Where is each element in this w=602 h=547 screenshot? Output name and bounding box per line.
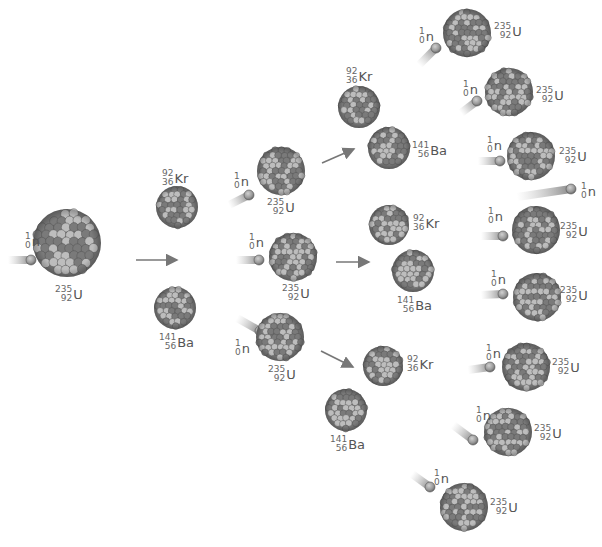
atomic-number: 92 [274, 374, 285, 383]
element-symbol: n [588, 185, 596, 198]
nucleus-u-235 [33, 209, 101, 277]
isotope-label: 23592U [282, 284, 310, 302]
diagram-canvas [0, 0, 602, 547]
isotope-label: 14156Ba [412, 141, 447, 159]
element-symbol: U [552, 427, 562, 440]
isotope-label: 9236Kr [413, 214, 439, 232]
element-symbol: Kr [425, 217, 439, 230]
atomic-number: 0 [234, 181, 240, 190]
isotope-label: 10n [581, 182, 596, 200]
nucleus-u-235 [257, 147, 305, 196]
isotope-label: 10n [25, 232, 40, 250]
atomic-number: 92 [565, 156, 576, 165]
isotope-label: 14156Ba [397, 296, 432, 314]
element-symbol: n [483, 409, 491, 422]
isotope-label: 23592U [55, 285, 83, 303]
atomic-number: 0 [25, 241, 31, 250]
nucleus-u-235 [484, 408, 532, 456]
reaction-arrow [321, 351, 353, 367]
isotope-label: 9236Kr [346, 67, 372, 85]
nucleus-u-235 [256, 313, 304, 361]
element-symbol: U [570, 361, 580, 374]
element-symbol: U [508, 501, 518, 514]
atomic-number: 56 [418, 150, 429, 159]
atomic-number: 0 [491, 279, 497, 288]
element-symbol: n [498, 273, 506, 286]
element-symbol: Kr [174, 172, 188, 185]
isotope-label: 23592U [267, 198, 295, 216]
atomic-number: 92 [558, 367, 569, 376]
element-symbol: U [286, 368, 296, 381]
element-symbol: n [470, 83, 478, 96]
isotope-label: 10n [434, 469, 449, 487]
atomic-number: 0 [419, 36, 425, 45]
isotope-label: 10n [486, 344, 501, 362]
isotope-label: 23592U [268, 365, 296, 383]
nucleus-ba-141 [391, 250, 434, 293]
element-symbol: U [285, 201, 295, 214]
nucleus-ba-141 [325, 389, 368, 433]
isotope-label: 10n [487, 136, 502, 154]
nucleus-u-235 [269, 233, 317, 282]
isotope-label: 14156Ba [159, 333, 194, 351]
atomic-number: 56 [336, 444, 347, 453]
neutron [410, 471, 435, 492]
neutron [467, 362, 495, 374]
isotope-label: 10n [235, 339, 250, 357]
atomic-number: 0 [476, 415, 482, 424]
atomic-number: 36 [407, 364, 418, 373]
element-symbol: n [495, 210, 503, 223]
isotope-label: 9236Kr [407, 355, 433, 373]
element-symbol: U [577, 150, 587, 163]
neutron [478, 156, 505, 166]
element-symbol: n [242, 342, 250, 355]
nucleus-u-235 [485, 68, 534, 116]
atomic-number: 0 [581, 191, 587, 200]
nucleus-kr-92 [363, 346, 403, 386]
atomic-number: 92 [542, 95, 553, 104]
element-symbol: U [300, 287, 310, 300]
neutron [451, 422, 478, 445]
nucleus-ba-141 [154, 286, 196, 329]
isotope-label: 23592U [552, 358, 580, 376]
atomic-number: 0 [487, 145, 493, 154]
neutron [227, 190, 254, 209]
neutron [416, 43, 441, 68]
element-symbol: n [256, 236, 264, 249]
neutron [459, 96, 482, 116]
atomic-number: 0 [486, 353, 492, 362]
isotope-label: 10n [488, 207, 503, 225]
nucleus-kr-92 [369, 205, 409, 245]
element-symbol: n [441, 472, 449, 485]
atomic-number: 92 [500, 31, 511, 40]
neutron [236, 255, 264, 265]
nucleus-u-235 [507, 132, 555, 180]
isotope-label: 10n [419, 27, 434, 45]
nucleus-kr-92 [156, 186, 198, 229]
atomic-number: 36 [413, 223, 424, 232]
element-symbol: Ba [177, 336, 194, 349]
atomic-number: 36 [162, 178, 173, 187]
atomic-number: 0 [488, 216, 494, 225]
atomic-number: 0 [235, 348, 241, 357]
element-symbol: n [241, 175, 249, 188]
atomic-number: 0 [463, 89, 469, 98]
element-symbol: Kr [419, 358, 433, 371]
element-symbol: Ba [430, 144, 447, 157]
isotope-label: 10n [491, 270, 506, 288]
element-symbol: U [578, 225, 588, 238]
nucleus-ba-141 [368, 127, 411, 169]
neutron [8, 255, 36, 265]
isotope-label: 23592U [534, 424, 562, 442]
isotope-label: 23592U [490, 498, 518, 516]
atomic-number: 92 [496, 507, 507, 516]
atomic-number: 56 [165, 342, 176, 351]
neutron [481, 231, 508, 241]
atomic-number: 92 [61, 294, 72, 303]
nucleus-kr-92 [338, 86, 380, 128]
nucleus-u-235 [443, 9, 491, 57]
atomic-number: 92 [566, 231, 577, 240]
element-symbol: n [32, 235, 40, 248]
nucleus-u-235 [513, 273, 561, 321]
nuclei [33, 9, 561, 532]
